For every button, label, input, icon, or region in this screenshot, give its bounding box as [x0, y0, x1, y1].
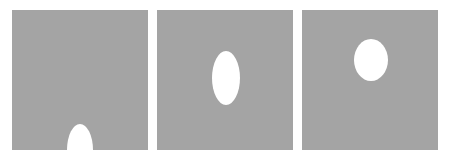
- white-ellipse-shape: [354, 39, 388, 81]
- panel-2-ellipse-center-tall: [157, 10, 293, 150]
- white-ellipse-shape: [67, 124, 93, 150]
- figure-stage: [0, 0, 452, 160]
- white-ellipse-shape: [212, 51, 240, 105]
- panel-1-ellipse-bottom: [12, 10, 148, 150]
- panel-3-ellipse-upper-round: [302, 10, 438, 150]
